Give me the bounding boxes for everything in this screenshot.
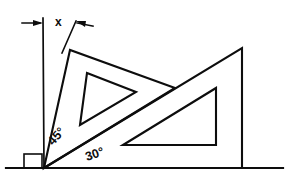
technical-drawing: x 45° 30° — [0, 0, 287, 177]
vertical-reference-line — [43, 18, 44, 168]
corner-block — [24, 154, 42, 168]
dimension-arrow-left-icon — [33, 20, 43, 26]
angle-label-30: 30° — [83, 144, 105, 163]
triangle-30-60-cutout — [123, 88, 216, 145]
triangle-30-60-outline — [44, 48, 242, 168]
dimension-arrow-right-icon — [76, 21, 86, 27]
extension-line — [62, 21, 76, 53]
triangle-45-outline — [44, 50, 175, 168]
figure-canvas: x 45° 30° — [0, 0, 287, 177]
dimension-label-x: x — [55, 15, 62, 29]
